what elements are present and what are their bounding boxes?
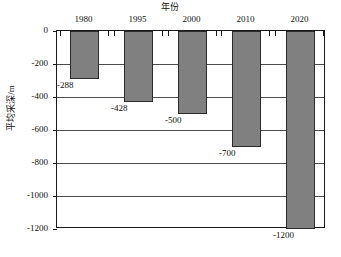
x-axis-tick (216, 31, 217, 36)
x-axis-tick (168, 31, 169, 36)
y-axis-tick-labels: 0-200-400-600-800-1000-1200 (0, 30, 52, 228)
bar (178, 31, 207, 114)
bar-value-label: -500 (165, 115, 182, 125)
y-axis-tick-label: -800 (0, 158, 48, 167)
bar (124, 31, 153, 102)
y-axis-tick-label: -1000 (0, 191, 48, 200)
x-axis-tick (108, 31, 109, 36)
y-axis-tick-label: 0 (0, 26, 48, 35)
y-axis-tick-label: -600 (0, 125, 48, 134)
y-axis-tick (53, 163, 57, 164)
y-axis-tick (53, 130, 57, 131)
x-axis-category-label: 1980 (57, 14, 110, 25)
chart-title: 年份 (0, 2, 341, 13)
bar-value-label: -428 (111, 103, 128, 113)
x-axis-category-labels: 19801995200020102020 (56, 14, 325, 28)
x-axis-category-label: 2010 (219, 14, 272, 25)
x-axis-tick (114, 31, 115, 36)
x-axis-tick (269, 31, 270, 36)
y-axis-tick (53, 64, 57, 65)
plot-area (56, 30, 325, 228)
gridline (57, 130, 324, 131)
bar (286, 31, 315, 229)
x-axis-tick (275, 31, 276, 36)
x-axis-tick (162, 31, 163, 36)
x-axis-category-label: 2020 (273, 14, 326, 25)
x-axis-category-label: 1995 (111, 14, 164, 25)
x-axis-category-label: 2000 (165, 14, 218, 25)
bar-value-label: -700 (219, 148, 236, 158)
bar (70, 31, 99, 79)
y-axis-tick-label: -400 (0, 92, 48, 101)
bar-chart: 年份 平均采深/m 0-200-400-600-800-1000-1200 19… (0, 0, 341, 257)
y-axis-tick (53, 97, 57, 98)
x-axis-tick (60, 31, 61, 36)
y-axis-tick (53, 31, 57, 32)
gridline (57, 196, 324, 197)
y-axis-tick (53, 229, 57, 230)
bar (232, 31, 261, 147)
y-axis-tick-label: -200 (0, 59, 48, 68)
gridline (57, 163, 324, 164)
bar-value-label: -1200 (273, 230, 294, 240)
bar-value-label: -288 (57, 80, 74, 90)
y-axis-tick-label: -1200 (0, 224, 48, 233)
x-axis-tick (323, 31, 324, 36)
y-axis-tick (53, 196, 57, 197)
x-axis-tick (221, 31, 222, 36)
